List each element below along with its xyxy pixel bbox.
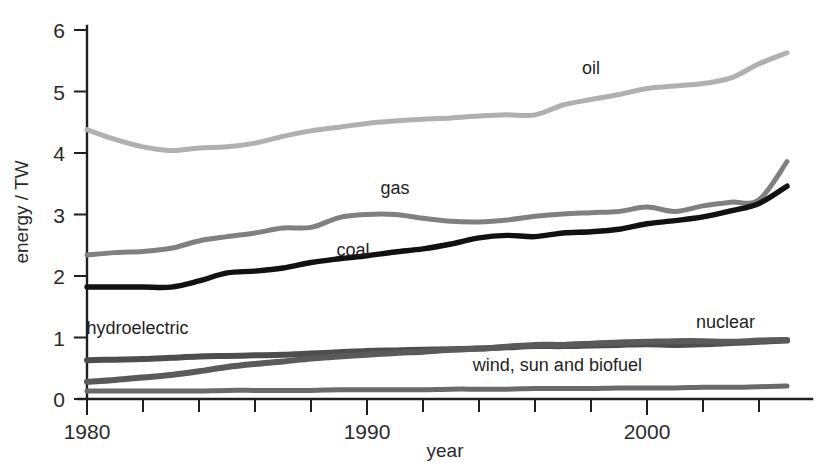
series-label-coal: coal xyxy=(336,240,369,260)
x-axis-title: year xyxy=(427,440,465,461)
y-tick-label: 1 xyxy=(53,327,65,350)
energy-mix-line-chart: 0123456198019902000 oilgascoalhydroelect… xyxy=(0,0,835,472)
y-axis-title: energy / TW xyxy=(11,160,32,263)
y-tick-label: 4 xyxy=(53,142,65,165)
series-line-coal xyxy=(87,186,787,287)
series-label-gas: gas xyxy=(380,178,409,198)
y-tick-label: 0 xyxy=(53,388,65,411)
chart-canvas: 0123456198019902000 oilgascoalhydroelect… xyxy=(0,0,835,472)
x-tick-label: 1980 xyxy=(64,420,111,443)
series-layer xyxy=(87,53,787,391)
series-label-hydroelectric: hydroelectric xyxy=(86,318,188,338)
series-label-wind-sun-and-biofuel: wind, sun and biofuel xyxy=(472,355,642,375)
axis-title-layer: yearenergy / TW xyxy=(11,160,464,461)
x-tick-label: 2000 xyxy=(624,420,671,443)
series-label-oil: oil xyxy=(582,58,600,78)
y-tick-label: 3 xyxy=(53,204,65,227)
series-label-nuclear: nuclear xyxy=(696,312,755,332)
y-tick-label: 5 xyxy=(53,81,65,104)
series-line-oil xyxy=(87,53,787,151)
y-tick-label: 2 xyxy=(53,265,65,288)
x-tick-label: 1990 xyxy=(344,420,391,443)
series-line-wind-sun-and-biofuel xyxy=(87,386,787,391)
y-tick-label: 6 xyxy=(53,19,65,42)
series-line-gas xyxy=(87,162,787,255)
